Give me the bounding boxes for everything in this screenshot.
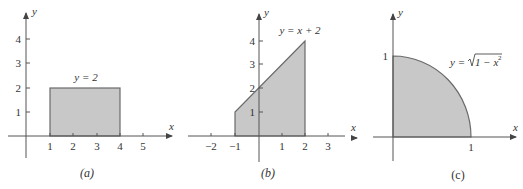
curve-label-radicand: 1 − x: [475, 56, 498, 68]
figure-canvas: 1 2 3 4 5 1 2 3 4 x y y = 2 (a): [0, 0, 523, 189]
panel-c: x 1 1 x y y = 1 − x 2 (c): [350, 6, 518, 182]
y-tick-label: 1: [16, 106, 22, 118]
x-tick-label: 4: [117, 140, 123, 152]
y-tick-label: 3: [16, 57, 22, 69]
x-tick-label: 1: [279, 140, 285, 152]
caption-a: (a): [80, 166, 94, 180]
x-tick-label: 1: [47, 140, 53, 152]
curve-label-b: y = x + 2: [278, 24, 321, 36]
y-tick-label: 2: [250, 82, 256, 94]
caption-c: (c): [451, 168, 464, 182]
y-axis-label-b: y: [263, 6, 269, 18]
x-tick-label: 3: [94, 140, 100, 152]
shaded-region-b: [235, 41, 305, 136]
curve-label-exponent: 2: [498, 54, 502, 62]
shaded-region-a: [50, 88, 120, 136]
x-tick-label: 2: [70, 140, 76, 152]
y-tick-label: 4: [250, 35, 256, 47]
panel-b: −2 −1 1 2 3 1 2 3 4 y y = x + 2 (b): [188, 6, 345, 180]
y-ticks-a: 1 2 3 4: [16, 33, 31, 118]
x-axis-label-c: x: [512, 121, 518, 133]
x-tick-label: 5: [140, 140, 146, 152]
y-axis-label-a: y: [31, 5, 37, 17]
x-tick-label: −2: [205, 140, 217, 152]
panel-a: 1 2 3 4 5 1 2 3 4 x y y = 2 (a): [8, 5, 174, 180]
curve-label-a: y = 2: [73, 71, 98, 83]
caption-b: (b): [261, 166, 275, 180]
y-axis-label-c: y: [397, 6, 403, 18]
curve-label-c: y = 1 − x 2: [449, 54, 502, 68]
x-tick-label: −1: [229, 140, 241, 152]
x-tick-label: 3: [325, 140, 331, 152]
y-tick-label: 1: [250, 106, 256, 118]
y-tick-label: 1: [383, 50, 389, 62]
shaded-region-c: [393, 56, 471, 137]
x-axis-label-a: x: [168, 120, 174, 132]
left-x-label: x: [350, 121, 356, 133]
y-tick-label: 2: [16, 82, 22, 94]
curve-label-prefix: y =: [449, 56, 465, 68]
y-tick-label: 3: [250, 58, 256, 70]
x-tick-label: 1: [468, 141, 474, 153]
x-tick-label: 2: [302, 140, 308, 152]
y-tick-label: 4: [16, 33, 22, 45]
